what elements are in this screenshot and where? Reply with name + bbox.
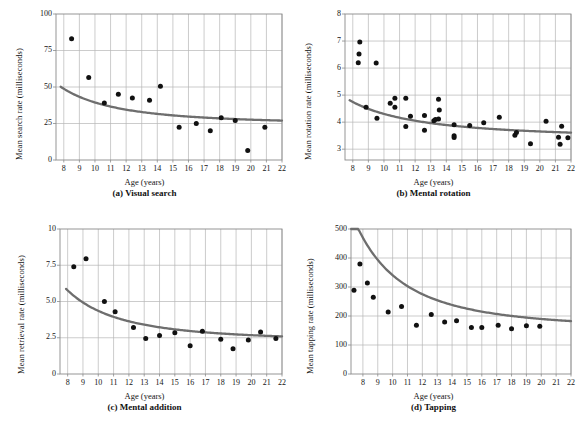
x-axis-tick-label: 10 <box>376 164 392 173</box>
data-point <box>84 256 89 261</box>
chart-panel-a: 02550751008910111213141516171819202122Me… <box>0 0 289 213</box>
data-point <box>422 113 427 118</box>
data-point <box>556 135 561 140</box>
data-point <box>467 123 472 128</box>
y-axis-tick-label: 0 <box>22 369 56 378</box>
chart-panel-d: 0100200300400500891011121314151617181920… <box>289 213 578 427</box>
y-axis-tick-label: 0 <box>22 155 52 164</box>
data-point <box>200 329 205 334</box>
data-point <box>69 36 74 41</box>
panel-caption: (a) Visual search <box>0 188 289 198</box>
y-axis-title: Mean tapping rate (milliseconds) <box>305 258 315 374</box>
x-axis-tick-label: 8 <box>56 164 72 173</box>
x-axis-title: Age (years) <box>0 177 289 187</box>
figure-four-panel-scatter: 02550751008910111213141516171819202122Me… <box>0 0 578 427</box>
data-point <box>131 325 136 330</box>
data-point <box>172 330 177 335</box>
x-axis-tick-label: 19 <box>518 378 534 387</box>
y-axis-tick-label: 7 <box>311 36 341 45</box>
data-point <box>143 336 148 341</box>
x-axis-tick-label: 22 <box>563 164 578 173</box>
y-axis-tick-label: 5 <box>311 90 341 99</box>
panel-caption: (c) Mental addition <box>0 402 289 412</box>
y-axis-tick-label: 25 <box>22 118 52 127</box>
data-point <box>208 128 213 133</box>
data-point <box>102 101 107 106</box>
data-point <box>371 295 376 300</box>
x-axis-tick-label: 12 <box>118 164 134 173</box>
data-point <box>469 325 474 330</box>
data-point <box>528 141 533 146</box>
y-axis-tick-label: 0 <box>311 369 347 378</box>
data-point <box>403 124 408 129</box>
x-axis-tick-label: 12 <box>121 378 137 387</box>
data-point <box>194 121 199 126</box>
x-axis-tick-label: 15 <box>167 378 183 387</box>
x-axis-tick-label: 17 <box>196 164 212 173</box>
x-axis-tick-label: 16 <box>469 164 485 173</box>
data-point <box>452 135 457 140</box>
y-axis-tick-label: 50 <box>22 82 52 91</box>
data-point <box>357 40 362 45</box>
data-point <box>414 323 419 328</box>
data-point <box>565 135 570 140</box>
chart-panel-c: 02.55.07.5108910111213141516171819202122… <box>0 213 289 427</box>
y-axis-title: Mean search rate (milliseconds) <box>14 48 24 160</box>
x-axis-tick-label: 9 <box>71 164 87 173</box>
data-point <box>218 337 223 342</box>
y-axis-tick-label: 3 <box>311 144 341 153</box>
y-axis-tick-label: 2.5 <box>22 332 56 341</box>
data-point <box>514 130 519 135</box>
data-point <box>386 309 391 314</box>
x-axis-tick-label: 8 <box>60 378 76 387</box>
x-axis-tick-label: 18 <box>504 378 520 387</box>
x-axis-tick-label: 9 <box>360 164 376 173</box>
x-axis-tick-label: 19 <box>228 378 244 387</box>
x-axis-tick-label: 18 <box>501 164 517 173</box>
x-axis-tick-label: 10 <box>87 164 103 173</box>
x-axis-tick-label: 14 <box>438 164 454 173</box>
panel-caption: (d) Tapping <box>289 402 578 412</box>
data-point <box>559 124 564 129</box>
y-axis-tick-label: 5.0 <box>22 296 56 305</box>
data-point <box>356 60 361 65</box>
data-point <box>403 96 408 101</box>
x-axis-tick-label: 14 <box>149 164 165 173</box>
x-axis-tick-label: 20 <box>533 378 549 387</box>
x-axis-tick-label: 8 <box>345 164 361 173</box>
x-axis-tick-label: 13 <box>429 378 445 387</box>
x-axis-tick-label: 10 <box>385 378 401 387</box>
data-point <box>233 118 238 123</box>
data-point <box>102 299 107 304</box>
data-point <box>496 323 501 328</box>
data-point <box>437 107 442 112</box>
data-point <box>258 329 263 334</box>
y-axis-tick-label: 400 <box>311 253 347 262</box>
y-axis-tick-label: 10 <box>22 224 56 233</box>
x-axis-tick-label: 22 <box>563 378 578 387</box>
data-point <box>544 119 549 124</box>
x-axis-tick-label: 16 <box>180 164 196 173</box>
data-point <box>116 92 121 97</box>
data-point <box>524 323 529 328</box>
y-axis-tick-label: 8 <box>311 9 341 18</box>
x-axis-tick-label: 21 <box>259 378 275 387</box>
x-axis-tick-label: 11 <box>103 164 119 173</box>
data-point <box>442 320 447 325</box>
data-point <box>177 125 182 130</box>
data-point <box>364 105 369 110</box>
x-axis-tick-label: 11 <box>106 378 122 387</box>
data-point <box>537 324 542 329</box>
data-point <box>558 142 563 147</box>
x-axis-tick-label: 22 <box>274 378 290 387</box>
data-point <box>262 125 267 130</box>
x-axis-tick-label: 13 <box>136 378 152 387</box>
x-axis-tick-label: 10 <box>90 378 106 387</box>
data-point <box>497 115 502 120</box>
data-point <box>231 346 236 351</box>
x-axis-title: Age (years) <box>0 391 289 401</box>
data-point <box>273 336 278 341</box>
x-axis-tick-label: 14 <box>444 378 460 387</box>
data-point <box>157 333 162 338</box>
x-axis-title: Age (years) <box>289 391 578 401</box>
